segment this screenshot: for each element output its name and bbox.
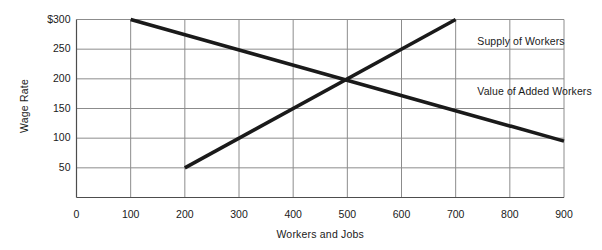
y-tick-label: 150 xyxy=(53,102,71,114)
y-tick-label: 200 xyxy=(53,72,71,84)
y-tick-label: 50 xyxy=(59,161,71,173)
x-tick-label: 100 xyxy=(101,208,161,220)
x-tick-label: 400 xyxy=(263,208,323,220)
series-line-supply xyxy=(185,20,456,168)
x-tick-label: 200 xyxy=(155,208,215,220)
y-tick-label: 250 xyxy=(53,42,71,54)
x-tick-label: 300 xyxy=(209,208,269,220)
y-tick-label: $300 xyxy=(47,13,70,25)
x-tick-label: 700 xyxy=(426,208,486,220)
x-tick-label: 0 xyxy=(47,208,107,220)
x-tick-label: 900 xyxy=(534,208,594,220)
x-axis-title: Workers and Jobs xyxy=(77,228,565,240)
series-label-supply: Supply of Workers xyxy=(477,35,564,47)
x-tick-label: 800 xyxy=(480,208,540,220)
y-tick-label: 100 xyxy=(53,131,71,143)
labor-market-chart: $30025020015010050 010020030040050060070… xyxy=(0,0,602,250)
series-label-value-added: Value of Added Workers xyxy=(477,85,591,97)
y-axis-title: Wage Rate xyxy=(18,61,30,151)
x-tick-label: 600 xyxy=(372,208,432,220)
x-tick-label: 500 xyxy=(317,208,377,220)
